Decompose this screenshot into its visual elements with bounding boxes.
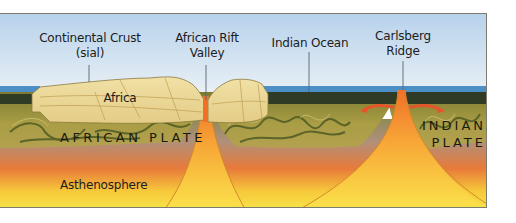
label-africa: Africa xyxy=(100,91,140,106)
cross-section-diagram: Continental Crust (sial) African Rift Va… xyxy=(0,13,487,208)
label-rift-valley-line2: Valley xyxy=(172,46,242,61)
label-carlsberg-ridge-line1: Carlsberg xyxy=(372,29,434,44)
label-carlsberg-ridge: Carlsberg Ridge xyxy=(372,29,434,59)
label-african-plate: AFRICAN PLATE xyxy=(60,129,206,146)
label-indian-ocean: Indian Ocean xyxy=(268,36,352,51)
label-indian-plate-line1: INDIAN xyxy=(422,117,486,134)
label-indian-plate-line2: PLATE xyxy=(422,134,486,151)
label-continental-crust-line1: Continental Crust xyxy=(38,31,142,46)
label-rift-valley: African Rift Valley xyxy=(172,31,242,61)
label-asthenosphere: Asthenosphere xyxy=(60,178,147,193)
label-continental-crust-line2: (sial) xyxy=(38,46,142,61)
label-indian-plate: INDIAN PLATE xyxy=(422,117,486,151)
label-rift-valley-line1: African Rift xyxy=(172,31,242,46)
label-continental-crust: Continental Crust (sial) xyxy=(38,31,142,61)
label-carlsberg-ridge-line2: Ridge xyxy=(372,44,434,59)
